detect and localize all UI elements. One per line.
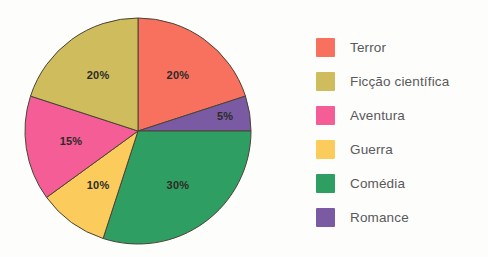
- pie-chart-svg: 20%5%30%10%15%20%: [0, 0, 290, 257]
- legend-item[interactable]: Terror: [316, 30, 488, 64]
- legend-item-label: Comédia: [350, 176, 405, 191]
- legend-color-swatch: [316, 208, 335, 227]
- legend-color-swatch: [316, 106, 335, 125]
- pie-chart-figure: 20%5%30%10%15%20% TerrorFicção científic…: [0, 0, 488, 257]
- legend-item[interactable]: Guerra: [316, 132, 488, 166]
- legend-item-label: Guerra: [350, 142, 393, 157]
- legend-item[interactable]: Romance: [316, 200, 488, 234]
- legend-item-label: Romance: [350, 210, 409, 225]
- pie-slice-value-label: 30%: [167, 179, 190, 191]
- pie-slice-value-label: 10%: [87, 179, 110, 191]
- legend-color-swatch: [316, 140, 335, 159]
- pie-slice-value-label: 5%: [217, 110, 233, 122]
- chart-legend: TerrorFicção científicaAventuraGuerraCom…: [316, 30, 488, 234]
- legend-item-label: Aventura: [350, 108, 405, 123]
- pie-slice-value-label: 20%: [87, 69, 110, 81]
- legend-item[interactable]: Ficção científica: [316, 64, 488, 98]
- legend-color-swatch: [316, 38, 335, 57]
- legend-item[interactable]: Aventura: [316, 98, 488, 132]
- pie-slice-value-label: 15%: [60, 135, 83, 147]
- legend-color-swatch: [316, 72, 335, 91]
- legend-item[interactable]: Comédia: [316, 166, 488, 200]
- legend-item-label: Terror: [350, 40, 386, 55]
- pie-chart-plot-area: 20%5%30%10%15%20%: [0, 0, 290, 257]
- pie-slice-group: [25, 18, 251, 244]
- pie-slice-value-label: 20%: [167, 69, 190, 81]
- legend-item-label: Ficção científica: [350, 74, 449, 89]
- legend-color-swatch: [316, 174, 335, 193]
